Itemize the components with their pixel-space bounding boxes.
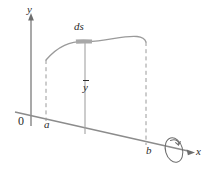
diagram-canvas (0, 0, 211, 176)
x-axis-label: x (196, 146, 201, 157)
x-axis-group (15, 112, 195, 155)
ds-label: ds (74, 21, 84, 32)
centroid-height-variable: y (83, 82, 89, 93)
point-b-label: b (146, 145, 152, 156)
arc-curve (46, 36, 146, 60)
point-a-label: a (44, 119, 50, 130)
x-axis-line (15, 112, 188, 151)
y-axis-group (28, 13, 34, 126)
x-axis-arrowhead (187, 149, 195, 155)
centroid-height-label: y (83, 80, 89, 93)
origin-label: 0 (18, 115, 24, 127)
figure-container: y x 0 a b ds y (0, 0, 211, 176)
y-axis-label: y (27, 4, 32, 15)
